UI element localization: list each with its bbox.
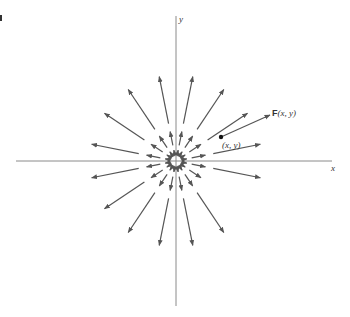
field-arrow <box>174 166 175 172</box>
field-arrow <box>183 77 192 124</box>
field-arrow <box>180 155 185 158</box>
field-arrow <box>177 166 178 172</box>
field-arrow <box>181 162 187 163</box>
field-arrow <box>189 144 201 152</box>
field-arrow <box>183 198 192 245</box>
field-arrow <box>189 170 201 178</box>
point-marker <box>219 135 223 139</box>
field-arrow <box>208 113 248 140</box>
field-arrow <box>159 136 167 148</box>
field-arrow <box>167 164 172 167</box>
field-arrow <box>170 152 173 157</box>
field-arrow <box>197 89 224 129</box>
field-arrow <box>147 164 161 167</box>
field-arrow <box>177 150 178 156</box>
y-axis-label: y <box>179 14 183 24</box>
field-arrow <box>170 132 173 146</box>
vector-field-diagram <box>0 0 350 317</box>
field-arrow <box>159 174 167 186</box>
field-arrow <box>165 162 171 163</box>
field-arrow <box>92 144 139 153</box>
field-arrow <box>174 150 175 156</box>
field-arrow <box>151 144 163 152</box>
x-axis-label: x <box>331 163 335 173</box>
field-arrow <box>213 168 260 177</box>
field-arrow <box>104 182 144 209</box>
field-arrow <box>179 177 182 191</box>
field-arrow <box>128 89 155 129</box>
field-arrow <box>181 159 187 160</box>
field-arrow <box>185 174 193 186</box>
field-arrow <box>170 165 173 170</box>
field-arrow <box>128 193 155 233</box>
field-arrow <box>185 136 193 148</box>
field-arrow <box>192 155 206 158</box>
field-arrow <box>165 159 171 160</box>
field-arrow <box>92 168 139 177</box>
field-arrow <box>180 164 185 167</box>
field-arrow <box>167 155 172 158</box>
field-arrow <box>192 164 206 167</box>
field-arrow <box>104 113 144 140</box>
point-label: (x, y) <box>222 140 240 150</box>
field-arrow <box>179 165 182 170</box>
field-label: F(x, y) <box>272 108 296 118</box>
field-arrow <box>147 155 161 158</box>
field-arrow <box>159 198 168 245</box>
field-arrow <box>151 170 163 178</box>
field-arrow <box>197 193 224 233</box>
field-arrow <box>179 152 182 157</box>
field-arrow <box>170 177 173 191</box>
field-arrow <box>179 132 182 146</box>
field-arrow <box>159 77 168 124</box>
